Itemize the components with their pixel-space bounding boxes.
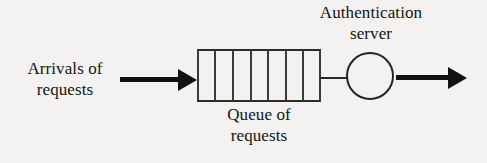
arrivals-label-line-2: requests: [6, 79, 124, 100]
queue-cell-divider: [232, 50, 234, 101]
arrivals-label-line-1: Arrivals of: [6, 58, 124, 79]
server-circle: [346, 52, 394, 100]
outbound-arrow-icon: [396, 67, 468, 89]
queue-cell-divider: [214, 50, 216, 101]
inbound-arrow-icon: [120, 69, 198, 91]
inbound-arrow-shaft: [120, 77, 180, 82]
queue-server-connector: [320, 77, 348, 79]
inbound-arrow-head: [178, 69, 197, 91]
outbound-arrow-head: [448, 67, 467, 89]
queue-cell-divider: [250, 50, 252, 101]
queueing-diagram: Arrivals of requests Queue of requests A…: [0, 0, 487, 163]
server-label: Authentication server: [288, 2, 454, 44]
queue-box: [197, 49, 321, 102]
queue-label-line-2: requests: [196, 125, 322, 146]
arrivals-label: Arrivals of requests: [6, 58, 124, 100]
queue-cell-divider: [267, 50, 269, 101]
queue-cell-divider: [285, 50, 287, 101]
queue-cell-divider: [197, 50, 199, 101]
server-label-line-2: server: [288, 23, 454, 44]
queue-label: Queue of requests: [196, 104, 322, 146]
queue-label-line-1: Queue of: [196, 104, 322, 125]
outbound-arrow-shaft: [396, 75, 450, 80]
queue-box-right-edge: [319, 50, 321, 101]
queue-cell-divider: [302, 50, 304, 101]
server-label-line-1: Authentication: [288, 2, 454, 23]
